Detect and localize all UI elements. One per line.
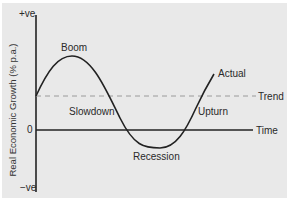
trend-line-label: Trend [258, 92, 284, 102]
time-axis-label: Time [256, 126, 278, 136]
phase-slowdown-label: Slowdown [69, 107, 115, 117]
phase-upturn-label: Upturn [198, 107, 228, 117]
phase-boom-label: Boom [61, 43, 87, 53]
phase-recession-label: Recession [133, 152, 180, 162]
y-axis-top-label: +ve [19, 9, 35, 19]
actual-growth-curve [36, 56, 214, 148]
y-axis-bottom-label: −ve [20, 183, 36, 193]
y-axis-zero-label: 0 [27, 125, 33, 135]
business-cycle-diagram [0, 0, 289, 202]
actual-line-label: Actual [218, 69, 246, 79]
y-axis-label: Real Economic Growth (% p.a.) [7, 43, 18, 176]
